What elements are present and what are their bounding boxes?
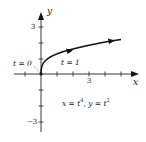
x-axis-label: x <box>133 77 138 87</box>
y-axis-arrow-icon <box>38 12 44 20</box>
equation-label: x = t4, y = t2 <box>62 97 110 108</box>
t1-label: t = 1 <box>61 58 80 67</box>
parametric-curve <box>41 40 121 75</box>
y-tick-label-3: 3 <box>31 23 35 31</box>
origin-point <box>39 72 42 75</box>
y-tick-label-neg3: −3 <box>27 118 37 126</box>
equation-y: , y = t <box>83 99 106 108</box>
equation-y-exponent: 2 <box>107 97 110 103</box>
x-tick-label-3: 3 <box>87 77 91 85</box>
equation-x: x = t <box>62 99 80 108</box>
t0-label: t = 0 <box>13 59 32 68</box>
y-axis-label: y <box>47 6 52 16</box>
t0-leader-line <box>34 66 40 73</box>
parametric-plot <box>0 0 146 142</box>
